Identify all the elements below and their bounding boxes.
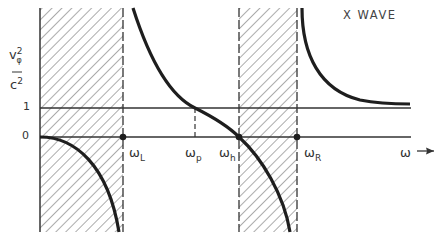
omega-p-symbol: ω (185, 145, 196, 160)
omega-l-point (120, 134, 127, 141)
y-label-c-sup: 2 (17, 76, 23, 86)
y-axis-label-denominator: c2 (10, 76, 23, 92)
y-tick-0: 0 (22, 129, 29, 142)
branch-high-frequency (302, 8, 410, 104)
y-tick-1: 1 (23, 100, 30, 113)
x-axis-arrow-head (426, 148, 434, 155)
omega-l-sub: L (140, 153, 145, 163)
omega-r-point (294, 134, 301, 141)
omega-r-symbol: ω (304, 145, 315, 160)
omega-l-label: ωL (129, 145, 145, 163)
dispersion-diagram (0, 0, 444, 246)
y-axis-label-numerator: v2φ (9, 46, 22, 65)
evanescent-region-middle (239, 8, 297, 232)
omega-h-symbol: ω (219, 145, 230, 160)
omega-r-sub: R (315, 153, 321, 163)
omega-r-label: ωR (304, 145, 321, 163)
x-axis-label: ω (400, 145, 411, 160)
y-label-v-sup: 2 (17, 46, 23, 56)
omega-l-symbol: ω (129, 145, 140, 160)
omega-h-label: ωh (219, 145, 236, 163)
diagram-title: X WAVE (343, 8, 397, 22)
y-label-v-sub: φ (16, 56, 21, 65)
omega-h-point (236, 134, 243, 141)
omega-p-label: ωp (185, 145, 202, 163)
omega-p-sub: p (196, 153, 202, 163)
omega-h-sub: h (230, 153, 236, 163)
